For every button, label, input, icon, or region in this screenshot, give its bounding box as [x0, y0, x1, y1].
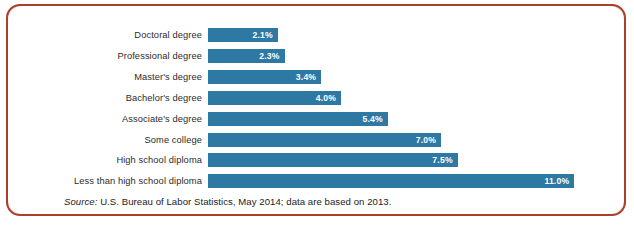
- bar-value-label: 3.4%: [296, 70, 316, 84]
- source-text: U.S. Bureau of Labor Statistics, May 201…: [100, 196, 391, 207]
- bar-value-label: 7.0%: [416, 133, 436, 147]
- bar-row: Doctoral degree2.1%: [8, 28, 624, 42]
- bar-fill: [208, 133, 441, 147]
- bar-category-label: Less than high school diploma: [12, 174, 202, 188]
- bar-category-label: Bachelor's degree: [12, 91, 202, 105]
- bar-category-label: Doctoral degree: [12, 28, 202, 42]
- bar-chart: Doctoral degree2.1%Professional degree2.…: [8, 6, 624, 214]
- bar-row: Some college7.0%: [8, 133, 624, 147]
- bar: 7.0%: [208, 133, 441, 147]
- bar-fill: [208, 153, 458, 167]
- bar-value-label: 4.0%: [316, 91, 336, 105]
- bar: 2.1%: [208, 28, 278, 42]
- bar-row: Bachelor's degree4.0%: [8, 91, 624, 105]
- bar-fill: [208, 112, 388, 126]
- bar-row: Master's degree3.4%: [8, 70, 624, 84]
- bar-row: Less than high school diploma11.0%: [8, 174, 624, 188]
- bar-row: Professional degree2.3%: [8, 49, 624, 63]
- source-note: Source: U.S. Bureau of Labor Statistics,…: [64, 196, 391, 207]
- bar-category-label: Some college: [12, 133, 202, 147]
- bar-value-label: 2.1%: [253, 28, 273, 42]
- bar-value-label: 7.5%: [432, 153, 452, 167]
- bar-category-label: High school diploma: [12, 153, 202, 167]
- bar-category-label: Associate's degree: [12, 112, 202, 126]
- figure-frame: Doctoral degree2.1%Professional degree2.…: [6, 4, 626, 216]
- bar-row: Associate's degree5.4%: [8, 112, 624, 126]
- bar-value-label: 2.3%: [259, 49, 279, 63]
- bar-value-label: 11.0%: [544, 174, 569, 188]
- source-label: Source:: [64, 196, 97, 207]
- bar-fill: [208, 174, 574, 188]
- bar: 7.5%: [208, 153, 458, 167]
- bar: 11.0%: [208, 174, 574, 188]
- bar-category-label: Professional degree: [12, 49, 202, 63]
- bar-row: High school diploma7.5%: [8, 153, 624, 167]
- bar: 3.4%: [208, 70, 321, 84]
- bar: 2.3%: [208, 49, 285, 63]
- bar: 4.0%: [208, 91, 341, 105]
- bar-category-label: Master's degree: [12, 70, 202, 84]
- bar-value-label: 5.4%: [362, 112, 382, 126]
- bar: 5.4%: [208, 112, 388, 126]
